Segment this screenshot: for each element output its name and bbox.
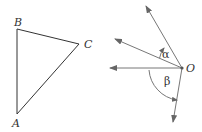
diagram-canvas: B C A O α β bbox=[0, 0, 202, 132]
origin-label-o: O bbox=[186, 62, 195, 75]
vertex-label-c: C bbox=[84, 38, 93, 51]
triangle-abc: B C A bbox=[11, 16, 93, 130]
rays-from-o bbox=[110, 6, 182, 122]
lower-ray bbox=[173, 68, 182, 122]
vertex-label-a: A bbox=[11, 117, 20, 130]
vertex-label-b: B bbox=[13, 16, 22, 29]
angle-label-alpha: α bbox=[162, 48, 170, 61]
upper-left-ray bbox=[115, 39, 182, 68]
angle-label-beta: β bbox=[164, 75, 170, 88]
origin-point bbox=[180, 66, 183, 69]
beta-arc bbox=[149, 70, 177, 100]
